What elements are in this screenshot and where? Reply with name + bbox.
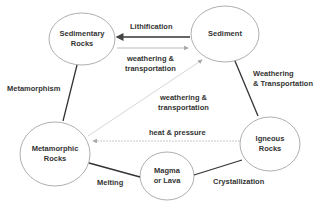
edge-text: transportation xyxy=(158,103,209,113)
edge-text: Metamorphism xyxy=(7,84,60,94)
edge-label-weathering-sed: weathering & transportation xyxy=(125,54,176,74)
node-label-magma: Magma or Lava xyxy=(154,166,181,186)
edge-metamorphism xyxy=(63,65,77,121)
node-label-sedimentary: Sedimentary Rocks xyxy=(59,29,104,49)
node-text: Sedimentary xyxy=(59,29,104,39)
edge-label-lithification: Lithification xyxy=(130,22,173,32)
edge-text: Crystallization xyxy=(213,177,264,187)
edge-text: Melting xyxy=(97,178,123,188)
edge-text: Weathering xyxy=(253,69,313,79)
edge-melting xyxy=(89,163,140,177)
node-text: Sediment xyxy=(208,29,242,39)
node-text: Rocks xyxy=(32,154,79,164)
edge-label-crystallization: Crystallization xyxy=(213,177,264,187)
node-text: or Lava xyxy=(154,176,181,186)
edge-text: weathering & xyxy=(125,54,176,64)
node-text: Rocks xyxy=(59,39,104,49)
edge-text: & Transportation xyxy=(253,79,313,89)
node-text: Magma xyxy=(154,166,181,176)
edge-text: transportation xyxy=(125,64,176,74)
edge-text: heat & pressure xyxy=(149,128,206,138)
node-label-sediment: Sediment xyxy=(208,29,242,39)
edge-label-heat-pressure: heat & pressure xyxy=(149,128,206,138)
edge-text: Lithification xyxy=(130,22,173,32)
node-text: Rocks xyxy=(256,144,285,154)
edge-text: weathering & xyxy=(158,93,209,103)
node-label-metamorphic: Metamorphic Rocks xyxy=(32,144,79,164)
edge-label-metamorphism: Metamorphism xyxy=(7,84,60,94)
node-text: Metamorphic xyxy=(32,144,79,154)
edge-label-weathering-meta: weathering & transportation xyxy=(158,93,209,113)
node-label-igneous: Igneous Rocks xyxy=(256,134,285,154)
edge-label-weathering-igneous: Weathering & Transportation xyxy=(253,69,313,89)
edge-crystallization xyxy=(194,160,242,175)
node-text: Igneous xyxy=(256,134,285,144)
edge-label-melting: Melting xyxy=(97,178,123,188)
